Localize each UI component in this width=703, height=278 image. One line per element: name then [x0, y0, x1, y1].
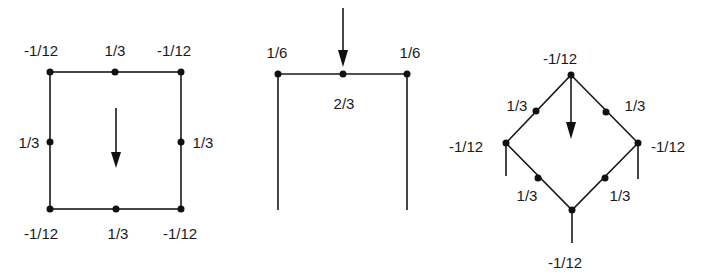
label-top-right: -1/12 — [157, 42, 191, 59]
node-top-right — [404, 71, 411, 78]
node-bottom-mid — [113, 206, 120, 213]
node-left-mid — [47, 139, 54, 146]
label-top: -1/12 — [543, 50, 577, 67]
node-upper-right-mid — [603, 109, 610, 116]
arrowhead-icon — [111, 152, 121, 168]
label-left: -1/12 — [449, 138, 483, 155]
diamond-element: -1/12 1/3 1/3 -1/12 -1/12 1/3 1/3 -1/12 — [449, 50, 685, 271]
label-bottom-left: -1/12 — [24, 225, 58, 242]
label-top-left: 1/6 — [267, 44, 288, 61]
label-top-mid: 2/3 — [334, 95, 355, 112]
square-element: -1/12 1/3 -1/12 1/3 1/3 -1/12 1/3 -1/12 — [19, 42, 214, 242]
node-top-mid — [340, 71, 347, 78]
node-bottom — [569, 207, 576, 214]
label-upper-right-mid: 1/3 — [625, 97, 646, 114]
node-top-mid — [112, 69, 119, 76]
node-upper-left-mid — [533, 108, 540, 115]
node-right-mid — [178, 139, 185, 146]
label-top-mid: 1/3 — [105, 42, 126, 59]
node-top-left — [275, 71, 282, 78]
node-top-right — [178, 69, 185, 76]
node-lower-right-mid — [602, 175, 609, 182]
open-frame-element: 1/6 1/6 2/3 — [267, 8, 421, 210]
label-left-mid: 1/3 — [19, 134, 40, 151]
node-bottom-left — [47, 206, 54, 213]
label-top-left: -1/12 — [24, 42, 58, 59]
node-right — [635, 140, 642, 147]
label-right: -1/12 — [651, 138, 685, 155]
label-upper-left-mid: 1/3 — [507, 97, 528, 114]
diagram-canvas: -1/12 1/3 -1/12 1/3 1/3 -1/12 1/3 -1/12 … — [0, 0, 703, 278]
label-lower-right-mid: 1/3 — [610, 187, 631, 204]
label-top-right: 1/6 — [400, 44, 421, 61]
label-right-mid: 1/3 — [193, 134, 214, 151]
label-bottom: -1/12 — [548, 254, 582, 271]
node-left — [503, 140, 510, 147]
arrowhead-icon — [338, 50, 348, 67]
arrowhead-icon — [566, 122, 576, 139]
node-top-left — [47, 69, 54, 76]
label-bottom-mid: 1/3 — [108, 225, 129, 242]
label-bottom-right: -1/12 — [163, 225, 197, 242]
label-lower-left-mid: 1/3 — [517, 187, 538, 204]
node-bottom-right — [178, 206, 185, 213]
node-lower-left-mid — [535, 175, 542, 182]
